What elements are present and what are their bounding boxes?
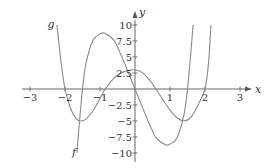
y-tick-label: −7.5: [108, 132, 132, 143]
x-tick-label: −3: [23, 92, 38, 103]
y-axis-label: y: [138, 6, 146, 19]
x-tick-label: 3: [237, 92, 243, 103]
y-tick-label: −2.5: [108, 100, 132, 111]
axes: [22, 11, 252, 162]
x-tick-label: −1: [93, 92, 108, 103]
x-tick-label: 1: [167, 92, 173, 103]
x-axis-label: x: [255, 83, 262, 96]
x-tick-label: −2: [58, 92, 73, 103]
y-tick-label: 10: [119, 20, 132, 31]
labels: xy−3−2−1123107.552.5−2.5−5−7.5−10fg: [23, 6, 262, 159]
x-tick-label: 2: [202, 92, 208, 103]
curve-label-g: g: [48, 18, 55, 31]
y-tick-label: 7.5: [116, 36, 132, 47]
y-tick-label: −10: [111, 148, 132, 159]
y-tick-label: 2.5: [116, 68, 132, 79]
function-graph: xy−3−2−1123107.552.5−2.5−5−7.5−10fg: [0, 0, 268, 168]
y-axis-arrow-icon: [133, 11, 138, 18]
y-tick-label: 5: [126, 52, 132, 63]
x-axis-arrow-icon: [245, 87, 252, 92]
y-tick-label: −5: [117, 116, 132, 127]
